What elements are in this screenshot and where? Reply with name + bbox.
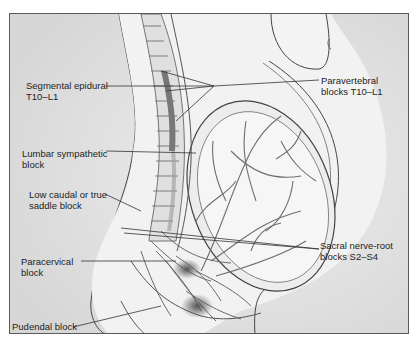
illustration-frame [9, 13, 409, 334]
label-low-caudal: Low caudal or true saddle block [29, 189, 107, 211]
label-lumbar-sympathetic: Lumbar sympathetic block [22, 148, 108, 170]
label-sacral-nerve-root: Sacral nerve-root blocks S2–S4 [320, 240, 393, 262]
label-paravertebral: Paravertebral blocks T10–L1 [321, 75, 383, 97]
label-paracervical: Paracervical block [21, 256, 73, 278]
label-pudendal: Pudendal block [12, 321, 77, 332]
label-segmental-epidural: Segmental epidural T10–L1 [26, 80, 108, 102]
anatomy-illustration [10, 14, 409, 334]
